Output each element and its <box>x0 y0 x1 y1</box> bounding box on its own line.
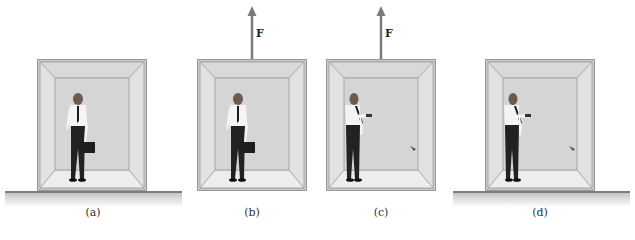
caption-b: (b) <box>237 206 267 219</box>
ground-d <box>453 191 630 207</box>
caption-c: (c) <box>366 206 396 219</box>
elevator-d <box>485 59 595 191</box>
caption-d: (d) <box>525 206 555 219</box>
force-label-b: F <box>256 27 264 40</box>
elevator-a <box>37 59 147 191</box>
caption-a: (a) <box>78 206 108 219</box>
force-label-c: F <box>385 27 393 40</box>
ground-a <box>5 191 182 207</box>
elevator-b <box>197 59 307 191</box>
elevator-c <box>326 59 436 191</box>
